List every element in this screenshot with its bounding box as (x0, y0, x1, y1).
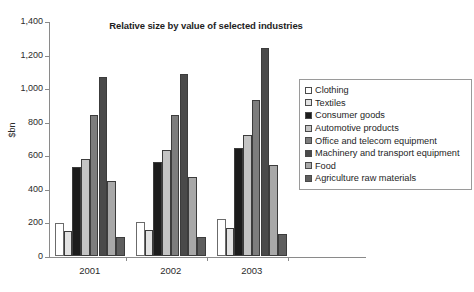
bar (234, 148, 243, 256)
legend-item[interactable]: Office and telecom equipment (305, 134, 467, 147)
legend-item[interactable]: Textiles (305, 97, 467, 110)
legend-item-label: Automotive products (315, 123, 399, 133)
legend-item-label: Food (315, 161, 336, 171)
y-tick-label: 200 (28, 217, 43, 227)
legend-swatch-icon (305, 99, 312, 106)
x-axis-group-label: 2002 (126, 265, 216, 276)
y-tick-mark (45, 123, 49, 124)
y-tick-mark (45, 22, 49, 23)
legend-swatch-icon (305, 112, 312, 119)
bar (261, 48, 270, 256)
x-axis-tick (288, 257, 289, 261)
chart-legend: ClothingTextilesConsumer goodsAutomotive… (299, 79, 472, 190)
bar (162, 150, 171, 256)
legend-item[interactable]: Consumer goods (305, 109, 467, 122)
legend-item[interactable]: Machinery and transport equipment (305, 147, 467, 160)
y-tick-label: 0 (38, 251, 43, 261)
bar (217, 219, 226, 256)
legend-item[interactable]: Food (305, 160, 467, 173)
legend-swatch-icon (305, 150, 312, 157)
legend-item-label: Textiles (315, 98, 346, 108)
bar (55, 223, 64, 256)
bar (278, 234, 287, 256)
bar (226, 228, 235, 256)
bar (116, 237, 125, 256)
bar (136, 222, 145, 256)
legend-item[interactable]: Clothing (305, 84, 467, 97)
y-axis-line (49, 22, 50, 258)
y-tick-label: 1,000 (20, 83, 43, 93)
y-tick-mark (45, 156, 49, 157)
x-axis-tick (207, 257, 208, 261)
y-tick-label: 800 (28, 117, 43, 127)
legend-item-label: Agriculture raw materials (315, 173, 416, 183)
y-tick-mark (45, 257, 49, 258)
bar (81, 159, 90, 256)
legend-swatch-icon (305, 137, 312, 144)
legend-swatch-icon (305, 175, 312, 182)
y-tick-mark (45, 190, 49, 191)
y-tick-mark (45, 56, 49, 57)
bar (197, 237, 206, 256)
bar (145, 230, 154, 256)
y-tick-label: 1,400 (20, 16, 43, 26)
y-tick-label: 400 (28, 184, 43, 194)
x-axis-tick (126, 257, 127, 261)
bar (171, 115, 180, 257)
bar-chart: Relative size by value of selected indus… (0, 0, 474, 292)
bar (107, 181, 116, 256)
legend-swatch-icon (305, 87, 312, 94)
legend-item-label: Clothing (315, 85, 349, 95)
bar (269, 165, 278, 256)
bar (188, 177, 197, 256)
bar (153, 162, 162, 256)
y-tick-mark (45, 223, 49, 224)
y-axis-label: $bn (7, 110, 17, 150)
legend-item-label: Machinery and transport equipment (315, 148, 460, 158)
y-tick-label: 1,200 (20, 50, 43, 60)
bar (243, 135, 252, 256)
bar (252, 100, 261, 256)
legend-item[interactable]: Agriculture raw materials (305, 172, 467, 185)
y-tick-label: 600 (28, 150, 43, 160)
legend-item[interactable]: Automotive products (305, 122, 467, 135)
bar (64, 231, 73, 256)
legend-item-label: Office and telecom equipment (315, 136, 437, 146)
x-axis-group-label: 2003 (207, 265, 297, 276)
bar (72, 167, 81, 256)
legend-swatch-icon (305, 125, 312, 132)
y-tick-mark (45, 89, 49, 90)
legend-item-label: Consumer goods (315, 110, 385, 120)
bar (180, 74, 189, 256)
legend-swatch-icon (305, 162, 312, 169)
bar (90, 115, 99, 256)
bar (99, 77, 108, 256)
x-axis-group-label: 2001 (45, 265, 135, 276)
